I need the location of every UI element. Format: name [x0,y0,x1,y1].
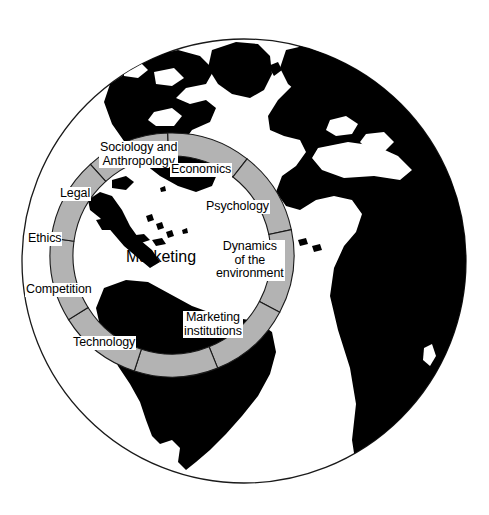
segment-label-legal: Legal [59,187,91,201]
segment-label-dynamics-of-the-environment: Dynamics of the environment [215,240,285,281]
center-label-marketing: Marketing [111,248,211,266]
segment-label-sociology-and-anthropology: Sociology and Anthropology [99,141,178,168]
segment-label-psychology: Psychology [205,200,270,214]
segment-label-marketing-institutions: Marketing institutions [183,311,243,338]
segment-label-economics: Economics [170,163,232,177]
segment-label-technology: Technology [72,336,136,350]
segment-label-competition: Competition [25,283,93,297]
marketing-environment-globe-figure: Marketing Sociology and AnthropologyEcon… [0,0,489,515]
segment-label-ethics: Ethics [27,232,62,246]
